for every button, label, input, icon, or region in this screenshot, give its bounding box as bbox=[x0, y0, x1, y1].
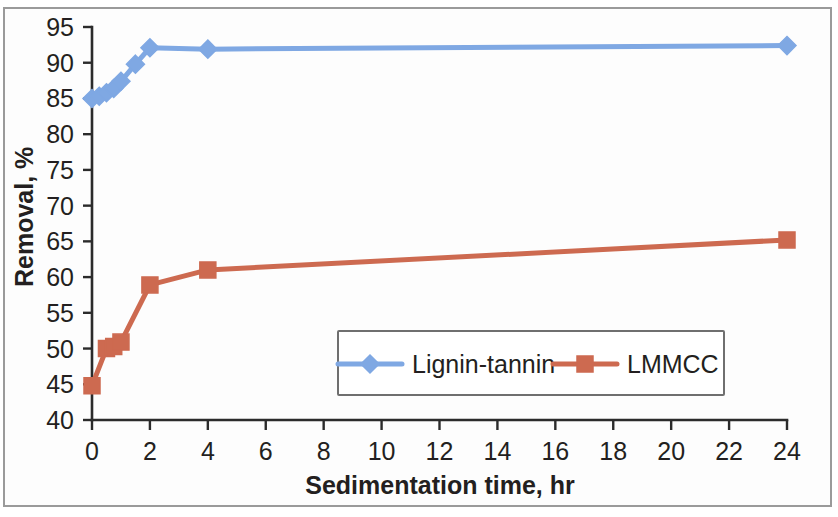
y-axis-tick-labels: 404550556065707580859095 bbox=[46, 13, 74, 434]
x-axis-title: Sedimentation time, hr bbox=[305, 471, 575, 499]
y-tick-label-65: 65 bbox=[46, 227, 74, 255]
chart-figure: 404550556065707580859095 024681012141618… bbox=[0, 0, 838, 517]
chart-legend[interactable]: Lignin-tanninLMMCC bbox=[338, 331, 724, 395]
x-tick-label-12: 12 bbox=[426, 437, 454, 465]
x-tick-label-18: 18 bbox=[599, 437, 627, 465]
data-point-marker bbox=[199, 40, 217, 58]
data-point-marker bbox=[142, 277, 158, 293]
x-tick-label-2: 2 bbox=[143, 437, 157, 465]
x-tick-label-6: 6 bbox=[259, 437, 273, 465]
y-tick-label-85: 85 bbox=[46, 84, 74, 112]
x-tick-label-14: 14 bbox=[484, 437, 512, 465]
x-tick-label-22: 22 bbox=[715, 437, 743, 465]
legend-label: LMMCC bbox=[627, 350, 719, 378]
data-point-marker bbox=[200, 262, 216, 278]
y-tick-label-75: 75 bbox=[46, 156, 74, 184]
x-tick-label-4: 4 bbox=[201, 437, 215, 465]
data-point-marker bbox=[113, 334, 129, 350]
chart-canvas: 404550556065707580859095 024681012141618… bbox=[0, 0, 838, 517]
y-axis-title: Removal, % bbox=[10, 147, 38, 287]
x-tick-label-10: 10 bbox=[368, 437, 396, 465]
data-point-marker bbox=[84, 378, 100, 394]
y-tick-label-70: 70 bbox=[46, 192, 74, 220]
y-tick-label-95: 95 bbox=[46, 13, 74, 41]
y-tick-label-45: 45 bbox=[46, 370, 74, 398]
y-tick-label-55: 55 bbox=[46, 299, 74, 327]
legend-square-icon bbox=[577, 356, 593, 372]
x-axis-ticks bbox=[92, 420, 787, 430]
x-tick-label-20: 20 bbox=[657, 437, 685, 465]
y-tick-label-40: 40 bbox=[46, 406, 74, 434]
x-tick-label-16: 16 bbox=[541, 437, 569, 465]
data-point-marker bbox=[779, 232, 795, 248]
y-tick-label-50: 50 bbox=[46, 335, 74, 363]
y-tick-label-60: 60 bbox=[46, 263, 74, 291]
y-tick-label-80: 80 bbox=[46, 120, 74, 148]
y-tick-label-90: 90 bbox=[46, 49, 74, 77]
data-point-marker bbox=[778, 37, 796, 55]
x-tick-label-24: 24 bbox=[773, 437, 801, 465]
x-tick-label-8: 8 bbox=[317, 437, 331, 465]
x-tick-label-0: 0 bbox=[85, 437, 99, 465]
legend-label: Lignin-tannin bbox=[412, 350, 555, 378]
series-line bbox=[92, 46, 787, 99]
series-lignin-tannin bbox=[83, 37, 796, 108]
y-axis-ticks bbox=[83, 27, 92, 420]
x-axis-tick-labels: 024681012141618202224 bbox=[85, 437, 801, 465]
